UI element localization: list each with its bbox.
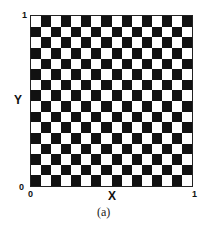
board-cell [162, 37, 172, 48]
board-cell [41, 90, 51, 101]
board-cell [182, 59, 192, 70]
board-cell [51, 112, 61, 123]
board-cell [162, 90, 172, 101]
board-cell [61, 112, 71, 123]
board-cell [162, 122, 172, 133]
board-cell [51, 165, 61, 176]
board-cell [41, 69, 51, 80]
board-cell [71, 122, 81, 133]
checkerboard-grid [30, 15, 193, 187]
board-cell [61, 122, 71, 133]
board-cell [162, 112, 172, 123]
board-cell [162, 165, 172, 176]
board-cell [122, 16, 132, 27]
board-cell [31, 69, 41, 80]
board-cell [91, 37, 101, 48]
board-cell [112, 48, 122, 59]
board-cell [71, 101, 81, 112]
board-cell [61, 154, 71, 165]
board-cell [142, 37, 152, 48]
board-cell [41, 27, 51, 38]
board-cell [91, 122, 101, 133]
board-cell [132, 112, 142, 123]
board-cell [172, 37, 182, 48]
board-cell [182, 48, 192, 59]
board-cell [31, 154, 41, 165]
board-cell [172, 48, 182, 59]
board-cell [142, 27, 152, 38]
board-cell [31, 112, 41, 123]
board-cell [152, 80, 162, 91]
board-cell [142, 122, 152, 133]
board-cell [81, 165, 91, 176]
board-cell [112, 154, 122, 165]
board-cell [182, 37, 192, 48]
x-tick-min: 0 [28, 190, 33, 199]
board-cell [71, 90, 81, 101]
board-cell [51, 16, 61, 27]
board-cell [81, 122, 91, 133]
board-cell [132, 59, 142, 70]
board-cell [132, 16, 142, 27]
board-cell [101, 16, 111, 27]
board-cell [172, 90, 182, 101]
board-cell [91, 154, 101, 165]
board-cell [71, 69, 81, 80]
board-cell [182, 112, 192, 123]
board-cell [91, 101, 101, 112]
board-cell [71, 154, 81, 165]
board-cell [81, 27, 91, 38]
board-cell [41, 59, 51, 70]
board-cell [101, 69, 111, 80]
board-cell [152, 165, 162, 176]
board-cell [132, 101, 142, 112]
board-cell [51, 144, 61, 155]
board-cell [132, 175, 142, 186]
board-cell [122, 175, 132, 186]
board-cell [182, 133, 192, 144]
board-cell [81, 90, 91, 101]
board-cell [122, 69, 132, 80]
board-cell [91, 90, 101, 101]
board-cell [162, 154, 172, 165]
board-cell [61, 133, 71, 144]
board-cell [101, 122, 111, 133]
board-cell [172, 59, 182, 70]
board-cell [101, 154, 111, 165]
board-cell [101, 101, 111, 112]
board-cell [41, 165, 51, 176]
board-cell [91, 112, 101, 123]
board-cell [41, 48, 51, 59]
board-cell [142, 16, 152, 27]
board-cell [182, 154, 192, 165]
board-cell [101, 112, 111, 123]
board-cell [172, 112, 182, 123]
board-cell [172, 144, 182, 155]
board-cell [81, 144, 91, 155]
board-cell [132, 154, 142, 165]
board-cell [71, 165, 81, 176]
board-cell [182, 122, 192, 133]
board-cell [31, 48, 41, 59]
board-cell [71, 144, 81, 155]
board-cell [172, 175, 182, 186]
y-axis-label: Y [14, 94, 22, 106]
board-cell [31, 133, 41, 144]
board-cell [112, 122, 122, 133]
board-cell [122, 48, 132, 59]
board-cell [101, 90, 111, 101]
board-cell [101, 37, 111, 48]
x-axis-label: X [108, 190, 116, 202]
board-cell [152, 69, 162, 80]
board-cell [132, 27, 142, 38]
board-cell [122, 80, 132, 91]
board-cell [152, 48, 162, 59]
board-cell [172, 122, 182, 133]
board-cell [31, 144, 41, 155]
board-cell [51, 27, 61, 38]
board-cell [71, 133, 81, 144]
board-cell [101, 48, 111, 59]
board-cell [172, 80, 182, 91]
board-cell [132, 165, 142, 176]
board-cell [61, 144, 71, 155]
